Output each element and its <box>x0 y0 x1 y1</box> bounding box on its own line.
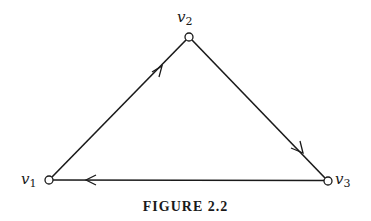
edge-v1-v2 <box>52 40 186 177</box>
vertex-v1 <box>45 176 53 184</box>
figure-canvas: v2 v1 v3 FIGURE 2.2 <box>0 0 371 221</box>
vertex-label-v2: v2 <box>177 10 192 27</box>
arrowhead-v1-v2-icon <box>152 66 162 77</box>
arrowhead-v2-v3-icon <box>291 141 303 153</box>
vertex-label-v3: v3 <box>335 172 350 189</box>
edge-v2-v3 <box>192 40 325 178</box>
edge-v3-v1 <box>53 180 324 181</box>
vertex-label-v1: v1 <box>21 172 36 189</box>
vertex-v2 <box>185 33 193 41</box>
figure-caption: FIGURE 2.2 <box>0 199 371 215</box>
directed-graph <box>0 0 371 221</box>
vertex-v3 <box>324 177 332 185</box>
